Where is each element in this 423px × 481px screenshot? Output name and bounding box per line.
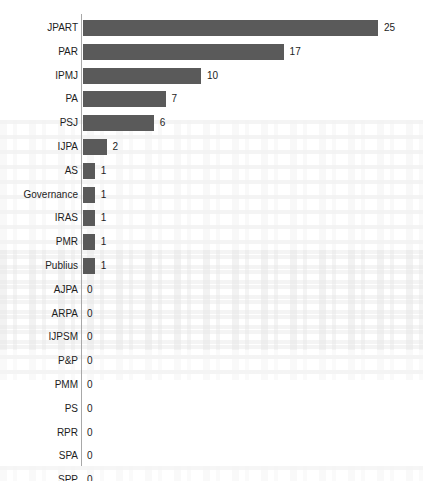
bar-row: JPART25 bbox=[0, 20, 423, 36]
plot-area: JPART25PAR17IPMJ10PA7PSJ6IJPA2AS1Governa… bbox=[0, 0, 423, 481]
category-label: IRAS bbox=[55, 210, 78, 226]
bar bbox=[83, 68, 201, 84]
bar-value-label: 1 bbox=[101, 234, 107, 250]
bar-row: PAR17 bbox=[0, 44, 423, 60]
category-label: PS bbox=[65, 401, 78, 417]
bar-row: P&P0 bbox=[0, 353, 423, 369]
bar-value-label: 0 bbox=[87, 282, 93, 298]
bar-row: PA7 bbox=[0, 91, 423, 107]
bar-row: AJPA0 bbox=[0, 282, 423, 298]
category-label: Publius bbox=[45, 258, 78, 274]
bar-value-label: 2 bbox=[113, 139, 119, 155]
category-label: AS bbox=[65, 163, 78, 179]
bar-value-label: 1 bbox=[101, 258, 107, 274]
bar-value-label: 0 bbox=[87, 306, 93, 322]
bar-value-label: 6 bbox=[160, 115, 166, 131]
bar-value-label: 1 bbox=[101, 210, 107, 226]
category-label: PMM bbox=[55, 377, 78, 393]
category-label: SPP bbox=[58, 472, 78, 481]
bar-value-label: 25 bbox=[384, 20, 395, 36]
bar-row: RPR0 bbox=[0, 425, 423, 441]
bar-value-label: 0 bbox=[87, 448, 93, 464]
bar-row: PMR1 bbox=[0, 234, 423, 250]
bar-row: SPP0 bbox=[0, 472, 423, 481]
category-label: PSJ bbox=[60, 115, 78, 131]
bar bbox=[83, 210, 95, 226]
bar-row: SPA0 bbox=[0, 448, 423, 464]
bar-row: IJPSM0 bbox=[0, 329, 423, 345]
category-label: AJPA bbox=[54, 282, 78, 298]
bar-row: IPMJ10 bbox=[0, 68, 423, 84]
bar-row: Publius1 bbox=[0, 258, 423, 274]
category-label: PMR bbox=[56, 234, 78, 250]
bar-row: Governance1 bbox=[0, 187, 423, 203]
bar bbox=[83, 139, 107, 155]
bar-row: AS1 bbox=[0, 163, 423, 179]
bar-row: ARPA0 bbox=[0, 306, 423, 322]
bar-value-label: 1 bbox=[101, 187, 107, 203]
bar bbox=[83, 187, 95, 203]
category-label: IJPSM bbox=[49, 329, 78, 345]
bar bbox=[83, 91, 166, 107]
bar-row: PS0 bbox=[0, 401, 423, 417]
bar-value-label: 1 bbox=[101, 163, 107, 179]
bar-value-label: 0 bbox=[87, 353, 93, 369]
category-label: PAR bbox=[58, 44, 78, 60]
bar-row: IJPA2 bbox=[0, 139, 423, 155]
bar-value-label: 7 bbox=[172, 91, 178, 107]
bar bbox=[83, 163, 95, 179]
bar-chart: JPART25PAR17IPMJ10PA7PSJ6IJPA2AS1Governa… bbox=[0, 0, 423, 481]
bar bbox=[83, 44, 284, 60]
category-label: JPART bbox=[47, 20, 78, 36]
bar bbox=[83, 115, 154, 131]
category-label: P&P bbox=[58, 353, 78, 369]
bar-value-label: 17 bbox=[290, 44, 301, 60]
category-label: Governance bbox=[24, 187, 78, 203]
bar-row: IRAS1 bbox=[0, 210, 423, 226]
bar-value-label: 0 bbox=[87, 377, 93, 393]
bar bbox=[83, 20, 378, 36]
bar-value-label: 10 bbox=[207, 68, 218, 84]
bar bbox=[83, 234, 95, 250]
bar-value-label: 0 bbox=[87, 472, 93, 481]
bar-row: PSJ6 bbox=[0, 115, 423, 131]
bar-value-label: 0 bbox=[87, 329, 93, 345]
bar bbox=[83, 258, 95, 274]
bar-value-label: 0 bbox=[87, 401, 93, 417]
category-label: IPMJ bbox=[55, 68, 78, 84]
bar-row: PMM0 bbox=[0, 377, 423, 393]
category-label: IJPA bbox=[58, 139, 78, 155]
category-label: ARPA bbox=[52, 306, 79, 322]
category-label: SPA bbox=[59, 448, 78, 464]
category-label: PA bbox=[65, 91, 78, 107]
category-label: RPR bbox=[57, 425, 78, 441]
bar-value-label: 0 bbox=[87, 425, 93, 441]
